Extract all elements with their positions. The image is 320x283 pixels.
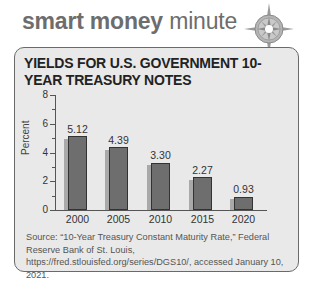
x-tick-label: 2020 bbox=[224, 213, 264, 225]
y-tick bbox=[50, 124, 55, 125]
y-tick-label: 6 bbox=[36, 118, 48, 129]
y-tick-label: 2 bbox=[36, 175, 48, 186]
y-tick bbox=[50, 181, 55, 182]
bar-2005 bbox=[109, 147, 128, 210]
x-tick-label: 2010 bbox=[141, 213, 181, 225]
x-tick-label: 2015 bbox=[183, 213, 223, 225]
bar-value-label: 4.39 bbox=[99, 134, 139, 146]
bar-value-label: 2.27 bbox=[183, 164, 223, 176]
y-axis-label: Percent bbox=[20, 121, 31, 155]
bar-value-label: 3.30 bbox=[141, 149, 181, 161]
y-tick-label: 8 bbox=[36, 89, 48, 100]
y-tick bbox=[50, 153, 55, 154]
brand-light: minute bbox=[169, 8, 237, 34]
y-tick bbox=[50, 95, 55, 96]
y-tick-label: 0 bbox=[36, 204, 48, 215]
bar-value-label: 0.93 bbox=[224, 183, 264, 195]
bar-2020 bbox=[234, 197, 253, 210]
y-axis bbox=[55, 95, 56, 210]
source-note: Source: “10-Year Treasury Constant Matur… bbox=[26, 231, 296, 281]
x-tick-label: 2005 bbox=[99, 213, 139, 225]
brand-title: smart money minute bbox=[22, 8, 237, 35]
x-axis bbox=[55, 210, 267, 211]
y-minor-tick bbox=[52, 138, 55, 139]
x-tick-label: 2000 bbox=[58, 213, 98, 225]
y-minor-tick bbox=[52, 109, 55, 110]
y-minor-tick bbox=[52, 167, 55, 168]
chart-title: YIELDS FOR U.S. GOVERNMENT 10-YEAR TREAS… bbox=[24, 55, 294, 89]
y-tick-label: 4 bbox=[36, 147, 48, 158]
bar-2000 bbox=[68, 136, 87, 210]
bar-2010 bbox=[151, 163, 170, 210]
bar-value-label: 5.12 bbox=[58, 123, 98, 135]
brand-bold: smart money bbox=[22, 8, 163, 34]
bar-2015 bbox=[193, 177, 212, 210]
y-tick bbox=[50, 210, 55, 211]
y-minor-tick bbox=[52, 196, 55, 197]
